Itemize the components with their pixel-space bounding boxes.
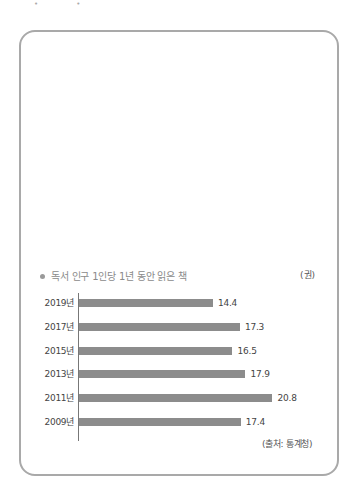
bar-row: 2019년14.4 xyxy=(0,297,359,309)
value-label: 17.9 xyxy=(250,368,269,380)
bar xyxy=(79,347,232,355)
source-note: (출처: 통계청) xyxy=(262,437,312,450)
bar xyxy=(79,323,240,331)
chart-title: 독서 인구 1인당 1년 동안 읽은 책 xyxy=(40,268,187,283)
category-label: 2017년 xyxy=(0,321,74,333)
bar-row: 2011년20.8 xyxy=(0,392,359,404)
value-label: 20.8 xyxy=(277,392,296,404)
value-label: 17.4 xyxy=(246,416,265,428)
bar-row: 2009년17.4 xyxy=(0,416,359,428)
bar xyxy=(79,394,272,402)
category-label: 2009년 xyxy=(0,416,74,428)
decorative-dots: • • xyxy=(34,0,98,8)
value-label: 17.3 xyxy=(245,321,264,333)
bar-row: 2013년17.9 xyxy=(0,368,359,380)
value-label: 14.4 xyxy=(218,297,237,309)
bar-row: 2017년17.3 xyxy=(0,321,359,333)
bullet-icon xyxy=(40,274,45,279)
category-label: 2015년 xyxy=(0,345,74,357)
category-label: 2019년 xyxy=(0,297,74,309)
category-label: 2011년 xyxy=(0,392,74,404)
category-label: 2013년 xyxy=(0,368,74,380)
chart-frame xyxy=(19,30,339,476)
bar xyxy=(79,299,213,307)
bar-row: 2015년16.5 xyxy=(0,345,359,357)
bar xyxy=(79,418,241,426)
unit-label: (권) xyxy=(300,268,315,281)
bar xyxy=(79,370,245,378)
chart-title-text: 독서 인구 1인당 1년 동안 읽은 책 xyxy=(51,271,187,282)
value-label: 16.5 xyxy=(237,345,256,357)
